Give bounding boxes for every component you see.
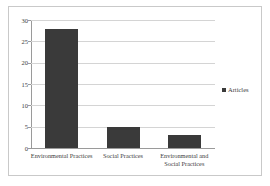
bar: [107, 127, 140, 148]
y-tick-mark-20: [28, 63, 31, 64]
legend-label-articles: Articles: [228, 86, 249, 93]
plot-area: [31, 20, 215, 148]
x-tick-label: Environmental and Social Practices: [148, 152, 221, 168]
legend-swatch-articles: [222, 88, 226, 92]
gridline-0: [31, 148, 215, 149]
bar: [45, 29, 78, 148]
gridline-30: [31, 20, 215, 21]
y-tick-mark-25: [28, 41, 31, 42]
x-axis-tick-labels: Environmental PracticesSocial PracticesE…: [31, 150, 215, 182]
bar: [168, 135, 201, 148]
y-tick-mark-0: [28, 148, 31, 149]
bar-chart-figure: 302520151050 Environmental PracticesSoci…: [0, 0, 270, 186]
y-tick-mark-30: [28, 20, 31, 21]
y-tick-mark-15: [28, 84, 31, 85]
y-tick-mark-10: [28, 105, 31, 106]
y-tick-mark-5: [28, 127, 31, 128]
chart-legend: Articles: [222, 86, 249, 93]
